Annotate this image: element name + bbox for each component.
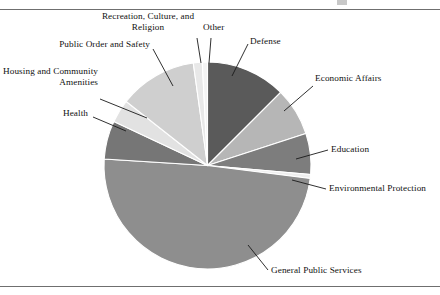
leader-line-recreation xyxy=(197,38,201,63)
slice-label-other: Other xyxy=(203,22,224,33)
slice-label-economic-affairs: Economic Affairs xyxy=(315,73,382,84)
pie-slice xyxy=(104,159,310,269)
slice-label-defense: Defense xyxy=(250,36,281,47)
leader-line-other xyxy=(209,38,211,63)
pie-chart-figure: Recreation, Culture, and Religion Other … xyxy=(0,0,440,295)
slice-label-general-public-services: General Public Services xyxy=(271,265,362,276)
slice-label-housing-and-community-amenities: Housing and Community Amenities xyxy=(2,66,98,87)
slice-label-education: Education xyxy=(331,144,369,155)
slice-label-environmental-protection: Environmental Protection xyxy=(329,183,426,194)
leader-line-economic-affairs xyxy=(284,86,313,111)
slice-label-health: Health xyxy=(28,108,88,119)
slice-label-recreation: Recreation, Culture, and Religion xyxy=(88,11,208,32)
pie-slice-group xyxy=(104,62,311,269)
slice-label-public-order-and-safety: Public Order and Safety xyxy=(22,39,150,50)
